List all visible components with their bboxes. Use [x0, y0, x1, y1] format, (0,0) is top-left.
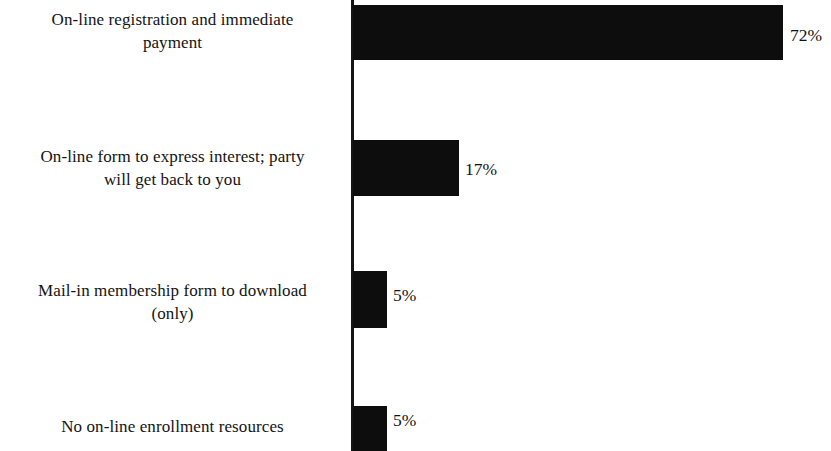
bar-no-online-resources [353, 406, 387, 451]
category-label-online-registration: On-line registration and immediate payme… [0, 8, 345, 54]
value-label-no-online-resources: 5% [393, 410, 416, 430]
value-label-mail-in-membership: 5% [393, 285, 416, 305]
category-label-line-2: will get back to you [0, 168, 345, 191]
bar-chart: On-line registration and immediate payme… [0, 0, 831, 451]
category-label-line-1: On-line form to express interest; party [0, 145, 345, 168]
category-label-no-online-resources: No on-line enrollment resources [0, 415, 345, 438]
value-label-online-registration: 72% [790, 25, 822, 45]
category-label-line-1: On-line registration and immediate [0, 8, 345, 31]
category-label-line-1: No on-line enrollment resources [0, 415, 345, 438]
value-label-online-form: 17% [465, 159, 497, 179]
category-label-online-form: On-line form to express interest; party … [0, 145, 345, 191]
category-label-line-2: payment [0, 31, 345, 54]
bar-mail-in-membership [353, 271, 387, 328]
category-label-line-1: Mail-in membership form to download [0, 279, 345, 302]
bar-online-form [353, 140, 459, 196]
bar-online-registration [353, 5, 783, 60]
category-axis-line [351, 0, 354, 451]
category-label-line-2: (only) [0, 302, 345, 325]
category-label-mail-in-membership: Mail-in membership form to download (onl… [0, 279, 345, 325]
